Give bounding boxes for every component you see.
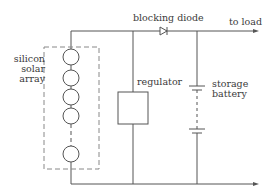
to-load-arrow-bottom xyxy=(253,182,259,186)
to-load-arrow-top xyxy=(253,29,259,33)
solar-cell-icon xyxy=(63,108,79,124)
blocking-diode-icon xyxy=(160,27,167,35)
to-load-label: to load xyxy=(229,17,262,27)
storage-battery-label-line: battery xyxy=(212,89,248,99)
regulator-label: regulator xyxy=(137,77,182,87)
storage-battery-label: storage battery xyxy=(212,79,248,99)
solar-cell-icon xyxy=(63,70,79,86)
solar-array-label: silicon solar array xyxy=(5,54,45,84)
solar-cell-icon xyxy=(63,89,79,105)
solar-cell-icon xyxy=(63,49,79,65)
solar-array-label-line: array xyxy=(5,74,45,84)
regulator-box xyxy=(118,92,148,124)
solar-cell-icon xyxy=(63,146,79,162)
blocking-diode-label: blocking diode xyxy=(133,13,204,23)
storage-battery-icon xyxy=(189,31,205,184)
